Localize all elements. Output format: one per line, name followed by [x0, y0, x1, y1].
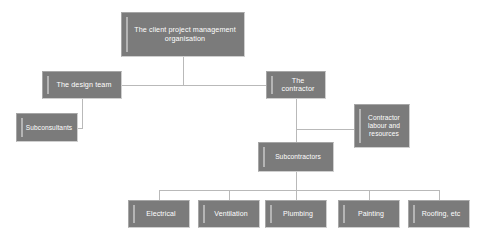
node-electrical-label: Electrical — [138, 210, 179, 218]
connector-design-to-subconsultants — [78, 128, 83, 129]
connector-stub-electrical — [159, 190, 160, 200]
connector-stub-roofing — [439, 190, 440, 200]
node-contractor-labour-and-resources[interactable]: Contractor labour and resources — [354, 104, 410, 148]
connector-stub-plumbing — [296, 190, 297, 200]
node-painting-label: Painting — [350, 210, 388, 218]
node-roofing-etc[interactable]: Roofing, etc — [408, 200, 470, 228]
connector-design-down — [82, 99, 83, 128]
node-contractor-labour-and-resources-label: Contractor labour and resources — [355, 114, 409, 137]
connector-leaf-bus — [159, 190, 439, 191]
node-contractor[interactable]: The contractor — [266, 71, 326, 99]
node-design-team[interactable]: The design team — [42, 71, 122, 99]
node-subcontractors[interactable]: Subcontractors — [258, 142, 334, 172]
node-electrical[interactable]: Electrical — [128, 200, 190, 228]
node-client-organisation-label: The client project management organisati… — [122, 26, 244, 43]
connector-stub-ventilation — [229, 190, 230, 200]
node-roofing-etc-label: Roofing, etc — [414, 210, 465, 218]
connector-subcontractors-down — [296, 172, 297, 190]
node-subconsultants-label: Subconsultants — [18, 124, 77, 132]
node-plumbing-label: Plumbing — [275, 210, 317, 218]
connector-contractor-down — [296, 99, 297, 145]
connector-client-down — [183, 57, 184, 85]
node-subcontractors-label: Subcontractors — [267, 153, 325, 161]
connector-stub-painting — [369, 190, 370, 200]
node-design-team-label: The design team — [48, 81, 115, 89]
node-painting[interactable]: Painting — [338, 200, 400, 228]
org-chart-diagram: The client project management organisati… — [0, 0, 479, 238]
connector-contractor-to-labour — [296, 129, 354, 130]
node-contractor-label: The contractor — [267, 77, 325, 94]
node-subconsultants[interactable]: Subconsultants — [16, 113, 78, 142]
node-plumbing[interactable]: Plumbing — [265, 200, 327, 228]
node-ventilation[interactable]: Ventilation — [198, 200, 260, 228]
node-client-organisation[interactable]: The client project management organisati… — [121, 12, 245, 57]
connector-level2-bus — [122, 85, 266, 86]
node-ventilation-label: Ventilation — [206, 210, 251, 218]
